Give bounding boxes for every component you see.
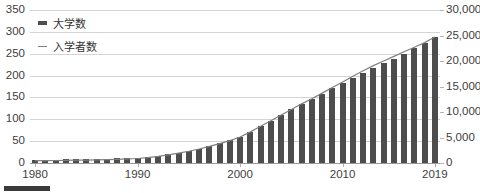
x-axis-tick — [35, 164, 36, 167]
caption-chip — [4, 186, 50, 191]
x-axis-tick-label: 1990 — [113, 169, 163, 181]
x-axis-tick-label: 2000 — [215, 169, 265, 181]
x-axis-baseline — [30, 163, 440, 164]
x-axis-tick-label: 1980 — [10, 169, 60, 181]
x-axis-tick-label: 2019 — [410, 169, 460, 181]
caption-strip — [0, 185, 480, 193]
x-axis-tick — [343, 164, 344, 167]
x-axis-tick-label: 2010 — [318, 169, 368, 181]
legend-bar-swatch-icon — [38, 21, 47, 25]
legend-item-bar: 大学数 — [38, 15, 86, 31]
chart-container: 050100150200250300350 05,00010,00015,000… — [0, 0, 480, 193]
legend-line-swatch-icon — [38, 46, 47, 47]
line-path — [35, 37, 435, 161]
legend-label-line: 入学者数 — [53, 38, 97, 54]
x-axis-tick — [240, 164, 241, 167]
x-axis-tick — [138, 164, 139, 167]
legend-label-bar: 大学数 — [53, 15, 86, 31]
x-axis-tick — [435, 164, 436, 167]
legend-item-line: 入学者数 — [38, 38, 97, 54]
